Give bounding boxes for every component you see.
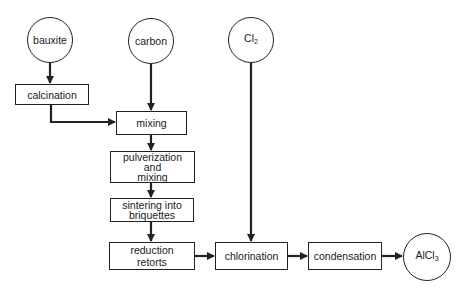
node-reduction-line2: retorts [137,257,167,267]
node-alcl3: AlCl3 [403,233,451,281]
arrow-calcination-mixing [51,105,115,122]
node-cl2: Cl2 [228,17,274,63]
node-pulverization: pulverization and mixing [110,151,195,183]
node-mixing-label: mixing [136,118,166,128]
node-condensation: condensation [308,242,382,270]
node-sintering: sintering into briquettes [110,198,194,222]
node-calcination: calcination [15,84,89,105]
node-reduction-line1: reduction [130,245,173,255]
node-calcination-label: calcination [27,90,77,100]
node-chlorination-label: chlorination [225,251,279,261]
node-sintering-line2: briquettes [129,210,175,220]
node-chlorination: chlorination [215,242,288,270]
node-carbon-label: carbon [135,36,167,46]
node-mixing: mixing [116,111,187,135]
node-reduction: reduction retorts [109,242,195,270]
node-bauxite: bauxite [27,17,73,63]
node-pulverization-line3: mixing [137,172,167,182]
node-alcl3-label: AlCl3 [415,250,438,264]
node-carbon: carbon [128,18,174,64]
node-condensation-label: condensation [314,251,376,261]
node-cl2-label: Cl2 [244,33,258,47]
node-bauxite-label: bauxite [33,35,67,45]
